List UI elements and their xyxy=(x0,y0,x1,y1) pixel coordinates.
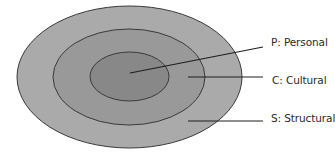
structural-label: S: Structural xyxy=(271,112,335,124)
personal-label: P: Personal xyxy=(271,36,328,48)
personal-ellipse xyxy=(90,52,169,101)
cultural-label: C: Cultural xyxy=(272,74,326,86)
